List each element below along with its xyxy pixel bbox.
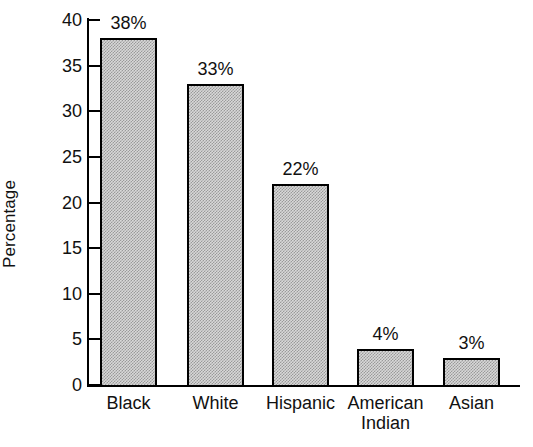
y-axis-tick-label-text: 25: [62, 148, 82, 166]
y-axis-tick-label-text: 5: [72, 330, 82, 348]
y-axis-tick-mark: [89, 293, 100, 295]
y-axis-tick-label: 20: [38, 193, 82, 213]
y-axis-tick-label: 30: [38, 101, 82, 121]
y-axis-title-label: Percentage: [0, 180, 20, 268]
bar-white: [187, 84, 244, 387]
y-axis-tick-mark: [89, 384, 100, 386]
y-axis-tick-label-text: 0: [72, 376, 82, 394]
y-axis-tick-mark: [89, 110, 100, 112]
y-axis-tick-mark: [89, 156, 100, 158]
y-axis-tick-mark: [89, 338, 100, 340]
y-axis-tick-label-text: 40: [62, 11, 82, 29]
category-label-line: Black: [106, 393, 150, 413]
y-axis-tick-label-text: 15: [62, 239, 82, 257]
bar-hispanic: [272, 184, 329, 387]
y-axis-tick-label: 35: [38, 56, 82, 76]
bar-chart: Percentage 0510152025303540 38%33%22%4%3…: [0, 0, 533, 447]
category-label-line: Hispanic: [266, 393, 335, 413]
category-label-line: White: [192, 393, 238, 413]
y-axis-tick-label-text: 35: [62, 57, 82, 75]
bar-value-label: 4%: [339, 325, 432, 343]
y-axis-tick-label: 15: [38, 238, 82, 258]
y-axis-tick-label: 25: [38, 147, 82, 167]
y-axis-tick-label: 5: [38, 329, 82, 349]
y-axis-tick-label-text: 20: [62, 194, 82, 212]
y-axis-tick-mark: [89, 65, 100, 67]
bar-black: [100, 38, 157, 387]
bar-american-indian: [357, 349, 414, 388]
bar-value-label: 33%: [169, 60, 262, 78]
category-label: Asian: [417, 393, 526, 413]
y-axis-tick-mark: [89, 202, 100, 204]
y-axis-tick-label: 0: [38, 375, 82, 395]
category-label-line: Indian: [331, 413, 440, 433]
y-axis-tick-mark: [89, 247, 100, 249]
bar-value-label: 3%: [425, 334, 518, 352]
bar-value-label: 38%: [82, 14, 175, 32]
bar-value-label: 22%: [254, 160, 347, 178]
category-label-line: Asian: [449, 393, 494, 413]
y-axis-tick-label: 40: [38, 10, 82, 30]
category-label-line: American: [347, 393, 423, 413]
bar-asian: [443, 358, 500, 387]
y-axis-title: Percentage: [0, 0, 25, 447]
y-axis-tick-label-text: 10: [62, 285, 82, 303]
y-axis-tick-label-text: 30: [62, 102, 82, 120]
y-axis-tick-label: 10: [38, 284, 82, 304]
